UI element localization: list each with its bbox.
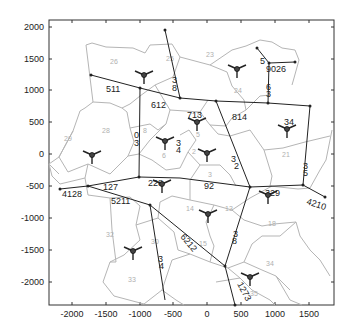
y-tick-label: 0: [39, 149, 44, 159]
cell-label: 25: [166, 55, 174, 62]
y-tick-label: 1500: [24, 54, 44, 64]
route-label: 4210: [305, 196, 327, 212]
x-tick-label: -2000: [60, 309, 83, 319]
route-label: 6212: [178, 232, 199, 254]
turbine-icon: [83, 151, 101, 164]
turbine-icon: [228, 65, 246, 78]
x-tick-label: -1500: [94, 309, 117, 319]
y-tick-label: -500: [26, 181, 44, 191]
route-label: 3: [134, 138, 139, 148]
cell-label: 21: [282, 151, 290, 158]
route-label: 5: [260, 56, 265, 66]
cell-label: 14: [186, 205, 194, 212]
y-tick-label: 2000: [24, 22, 44, 32]
cell-label: 32: [106, 231, 114, 238]
cell-label: 28: [102, 127, 110, 134]
route-label: 8: [172, 83, 177, 93]
cell-label: 5: [196, 131, 200, 138]
cell-label: 3: [208, 171, 212, 178]
turbine-icon: [124, 247, 142, 260]
route-label: 9026: [266, 64, 286, 74]
route-label: 5211: [111, 196, 130, 206]
route-label: 4128: [62, 189, 82, 199]
x-tick-label: -1000: [128, 309, 151, 319]
cell-label: 13: [225, 205, 233, 212]
route-nodes: [59, 29, 327, 307]
y-tick-label: -2000: [21, 277, 44, 287]
route-label: 34: [284, 117, 294, 127]
route-label: 3: [266, 89, 271, 99]
wind-farm-layout-diagram: -2000 -1500 -1000 -500 0 500 1000 1500 2…: [0, 0, 351, 335]
cell-label: 6: [162, 152, 166, 159]
x-tick-label: -500: [164, 309, 182, 319]
route-labels: 511 612 713 814 34 5 9026 3 8 6 3 0 3 3 …: [62, 56, 328, 303]
y-tick-label: 500: [29, 117, 44, 127]
turbine-icon: [278, 125, 296, 138]
cell-label: 34: [266, 260, 274, 267]
turbine-icon: [135, 71, 153, 84]
route-label: 127: [103, 182, 118, 192]
route-label: 1273: [235, 280, 253, 302]
x-tick-label: 0: [204, 309, 209, 319]
cell-label: 33: [128, 276, 136, 283]
route-label: 92: [204, 181, 214, 191]
cell-label: 23: [206, 51, 214, 58]
route-label: 2: [234, 161, 239, 171]
y-tick-label: 1000: [24, 85, 44, 95]
route-label: 814: [232, 112, 247, 122]
cell-label: 18: [268, 220, 276, 227]
x-tick-label: 1500: [299, 309, 319, 319]
turbine-icon: [188, 118, 206, 131]
route-label: 4: [159, 261, 164, 271]
route-label: 612: [151, 100, 166, 110]
y-tick-label: -1000: [21, 213, 44, 223]
cell-label: 8: [143, 127, 147, 134]
route-label: 511: [106, 84, 120, 94]
turbine-icon: [199, 210, 217, 223]
turbine-icon: [198, 149, 216, 162]
x-tick-label: 1000: [265, 309, 285, 319]
cell-label: 2: [192, 148, 196, 155]
cell-label: 24: [234, 87, 242, 94]
route-label: 4: [176, 145, 181, 155]
cell-label: 26: [110, 58, 118, 65]
cell-boundaries: [49, 40, 332, 305]
route-label: 5: [303, 168, 308, 178]
route-label: 8: [232, 236, 237, 246]
turbine-icon: [156, 137, 174, 150]
cell-label: 29: [64, 135, 72, 142]
x-tick-label: 500: [233, 309, 248, 319]
y-tick-label: -1500: [21, 245, 44, 255]
